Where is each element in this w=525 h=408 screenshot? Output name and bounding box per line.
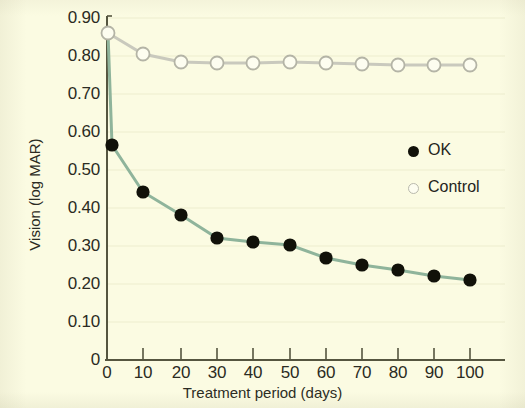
series-markers-ok — [105, 138, 476, 286]
x-tick-label-0: 0 — [87, 363, 127, 383]
chart-figure: 0.90 0.80 0.70 0.60 0.50 0.40 0.30 0.20 … — [0, 0, 525, 408]
x-tick-label-90: 90 — [414, 363, 454, 383]
x-tick-marks — [107, 348, 470, 360]
x-tick-label-100: 100 — [450, 363, 490, 383]
y-axis-title: Vision (log MAR) — [26, 115, 43, 275]
x-tick-label-50: 50 — [270, 363, 310, 383]
x-tick-label-70: 70 — [342, 363, 382, 383]
y-tick-label-0.10: 0.10 — [38, 312, 100, 332]
y-tick-label-0.50: 0.50 — [38, 160, 100, 180]
x-tick-label-20: 20 — [161, 363, 201, 383]
legend-label-control: Control — [428, 178, 480, 196]
x-tick-label-40: 40 — [233, 363, 273, 383]
y-tick-label-0.80: 0.80 — [38, 46, 100, 66]
y-tick-label-0.40: 0.40 — [38, 198, 100, 218]
y-tick-label-0.30: 0.30 — [38, 236, 100, 256]
y-tick-label-0.70: 0.70 — [38, 84, 100, 104]
x-tick-label-60: 60 — [306, 363, 346, 383]
legend-marker-ok-icon — [408, 146, 419, 157]
y-tick-label-0.20: 0.20 — [38, 274, 100, 294]
legend-label-ok: OK — [428, 141, 451, 159]
legend-marker-control-icon — [408, 183, 419, 194]
x-axis-title: Treatment period (days) — [0, 384, 525, 401]
x-tick-label-30: 30 — [197, 363, 237, 383]
x-tick-label-10: 10 — [123, 363, 163, 383]
y-tick-label-0.90: 0.90 — [38, 8, 100, 28]
x-tick-label-80: 80 — [378, 363, 418, 383]
y-tick-label-0.60: 0.60 — [38, 122, 100, 142]
